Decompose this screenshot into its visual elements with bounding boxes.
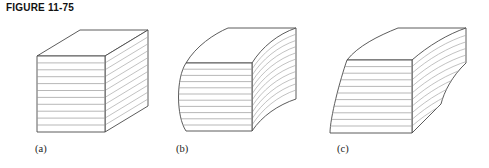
shape-a-straight-block [37, 30, 148, 132]
shape-a-front-face [37, 56, 105, 132]
shape-b-curved-block [173, 28, 296, 131]
panel-label-b: (b) [176, 143, 188, 154]
shape-c-tapered-block [326, 28, 468, 133]
shape-b-front-face [179, 63, 253, 131]
figure-container: FIGURE 11-75 [0, 0, 489, 168]
panel-label-c: (c) [337, 143, 349, 154]
shape-c-front-face [330, 60, 412, 133]
panel-label-a: (a) [35, 143, 47, 154]
figure-illustration [0, 0, 489, 168]
